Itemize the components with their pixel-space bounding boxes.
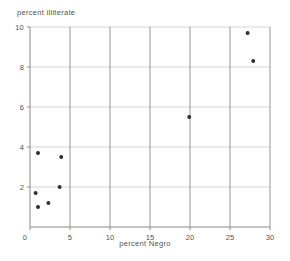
y-tick-label: 2 bbox=[20, 183, 24, 192]
data-point bbox=[246, 31, 250, 35]
scatter-plot-canvas: 246810051015202530 bbox=[0, 0, 290, 261]
data-point bbox=[36, 205, 40, 209]
data-point bbox=[251, 59, 255, 63]
x-tick-label: 25 bbox=[226, 233, 235, 242]
y-tick-label: 6 bbox=[20, 103, 24, 112]
y-tick-label: 8 bbox=[20, 63, 24, 72]
data-point bbox=[36, 151, 40, 155]
data-point bbox=[187, 115, 191, 119]
y-tick-label: 10 bbox=[15, 23, 24, 32]
x-tick-label: 0 bbox=[23, 233, 27, 242]
x-tick-label: 5 bbox=[68, 233, 72, 242]
x-tick-label: 30 bbox=[266, 233, 275, 242]
scatter-plot-figure: percent illiterate 246810051015202530 pe… bbox=[0, 0, 290, 261]
data-point bbox=[34, 191, 38, 195]
x-axis-title: percent Negro bbox=[100, 239, 190, 248]
data-point bbox=[59, 155, 63, 159]
y-tick-label: 4 bbox=[20, 143, 24, 152]
data-point bbox=[58, 185, 62, 189]
data-point bbox=[46, 201, 50, 205]
